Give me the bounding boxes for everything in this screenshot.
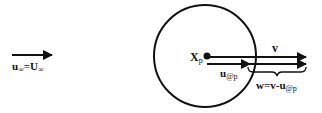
u-at-p-label: u@p — [220, 68, 238, 81]
w-brace — [248, 67, 306, 76]
v-label: v — [272, 42, 278, 54]
freestream-label: u∞=U∞ — [12, 61, 44, 74]
diagram-canvas — [0, 0, 322, 113]
w-label: w=v-u@p — [256, 80, 297, 93]
particle-label: Xp — [190, 51, 203, 65]
